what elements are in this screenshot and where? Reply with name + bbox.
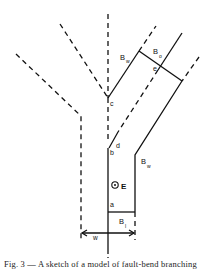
label-bo-sub: o	[159, 53, 162, 59]
label-e: e	[153, 65, 157, 72]
label-c: c	[110, 100, 114, 107]
label-bw-top: B	[120, 53, 125, 62]
label-bw-top-sub: w	[126, 58, 130, 64]
label-bl: B	[119, 217, 124, 226]
diagram: c d b e E a B w B o B w B l w	[0, 0, 207, 269]
label-a: a	[110, 201, 114, 208]
outer-left-boundary	[16, 54, 81, 240]
e-marker-dot-icon	[114, 184, 116, 186]
right-outer-dashed	[182, 57, 199, 81]
label-bw-right-sub: w	[147, 163, 151, 169]
label-bl-sub: l	[125, 223, 126, 229]
e-line-solid-upper	[158, 33, 182, 70]
right-outer-solid	[135, 81, 182, 212]
label-bo: B	[153, 47, 158, 56]
e-line-dashed	[118, 70, 158, 132]
label-bw-right: B	[141, 157, 146, 166]
label-b: b	[110, 149, 114, 156]
label-d: d	[116, 142, 120, 149]
label-E: E	[121, 182, 127, 191]
figure-caption: Fig. 3 — A sketch of a model of fault-be…	[4, 259, 207, 269]
label-w: w	[92, 234, 98, 241]
inner-left-dashed	[60, 24, 108, 98]
